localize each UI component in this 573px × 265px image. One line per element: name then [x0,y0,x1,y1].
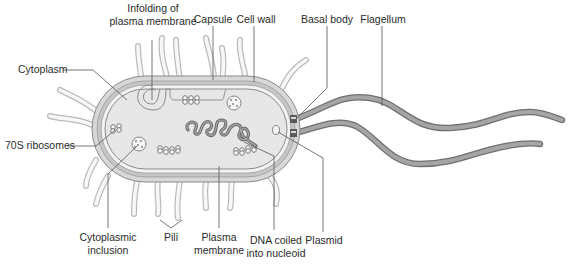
label-inclusion-1: Cytoplasmic [79,231,136,243]
diagram-canvas: Infolding of plasma membrane Capsule Cel… [0,0,573,265]
label-plasma-2: membrane [194,244,244,256]
leader-pili [160,220,182,228]
bacterial-cell-diagram: Infolding of plasma membrane Capsule Cel… [0,0,573,265]
pilus [177,180,180,218]
pilus [205,180,206,208]
label-inclusion-2: inclusion [88,244,129,256]
label-ribosomes: 70S ribosomes [5,139,75,151]
pilus [50,116,94,126]
pilus [86,160,96,186]
pilus [230,180,232,208]
label-pili: Pili [164,231,178,243]
pilus [96,176,108,204]
pilus [176,40,180,80]
pilus [222,48,224,80]
pilus [60,90,100,114]
label-plasmid: Plasmid [305,234,343,246]
label-dna-1: DNA coiled [250,234,302,246]
ribosome-cluster [183,96,200,105]
pilus [134,178,138,214]
plasmid [273,126,280,135]
label-capsule: Capsule [194,13,233,25]
flagellum [296,123,540,164]
pilus [240,40,246,80]
cytoplasmic-inclusion [227,96,241,110]
label-cell-wall: Cell wall [236,13,275,25]
label-plasma-1: Plasma [201,231,236,243]
pilus [157,180,158,214]
flagella-group [296,97,562,164]
label-cytoplasm: Cytoplasm [18,63,68,75]
label-basal-body: Basal body [301,13,354,25]
label-infolding-2: plasma membrane [110,15,197,27]
pilus [161,38,168,80]
label-infolding-1: Infolding of [127,2,178,14]
label-dna-2: into nucleoid [247,247,306,259]
label-flagellum: Flagellum [360,13,406,25]
